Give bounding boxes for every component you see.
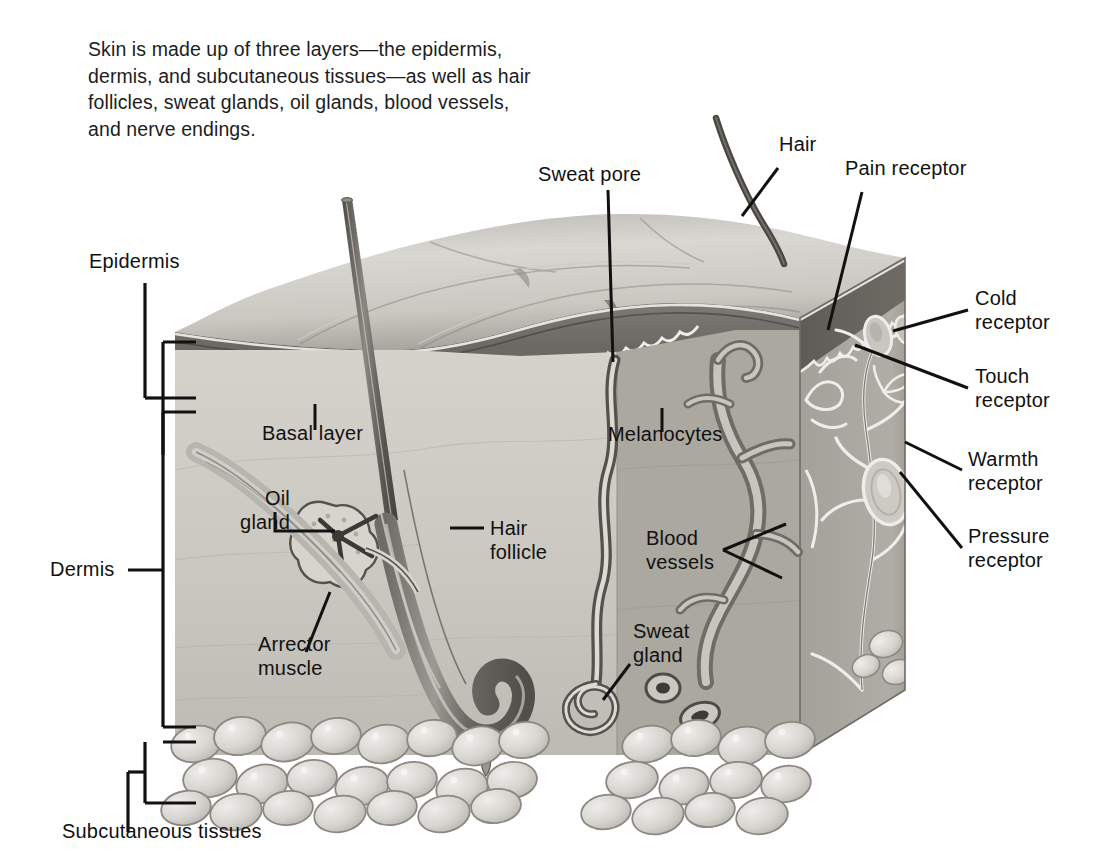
callout-label-sweat-pore: Sweat pore: [538, 163, 641, 187]
figure-root: Skin is made up of three layers—the epid…: [0, 0, 1113, 861]
callout-label-warmth-receptor: Warmth receptor: [968, 448, 1043, 495]
callout-label-basal-layer: Basal layer: [262, 422, 363, 446]
layer-label-epidermis: Epidermis: [89, 250, 180, 274]
callout-label-hair-follicle: Hair follicle: [490, 517, 547, 564]
caption-line-3: follicles, sweat glands, oil glands, blo…: [88, 89, 518, 116]
callout-label-sweat-gland: Sweat gland: [633, 620, 690, 667]
callout-label-arrector-muscle: Arrector muscle: [258, 633, 331, 680]
layer-label-dermis: Dermis: [50, 558, 115, 582]
callout-label-oil-gland: Oil gland: [185, 487, 290, 534]
caption-line-1: Skin is made up of three layers—the epid…: [88, 36, 518, 63]
callout-label-hair: Hair: [779, 133, 816, 157]
callout-label-touch-receptor: Touch receptor: [975, 365, 1050, 412]
callout-label-pressure-receptor: Pressure receptor: [968, 525, 1050, 572]
layer-label-subcutaneous: Subcutaneous tissues: [62, 820, 262, 844]
callout-label-melanocytes: Melanocytes: [608, 423, 722, 447]
caption-line-2: dermis, and subcutaneous tissues—as well…: [88, 63, 518, 90]
figure-caption: Skin is made up of three layers—the epid…: [88, 36, 518, 142]
callout-label-cold-receptor: Cold receptor: [975, 287, 1050, 334]
callout-label-blood-vessels: Blood vessels: [646, 527, 714, 574]
callout-label-pain-receptor: Pain receptor: [845, 157, 967, 181]
caption-line-4: and nerve endings.: [88, 116, 518, 143]
